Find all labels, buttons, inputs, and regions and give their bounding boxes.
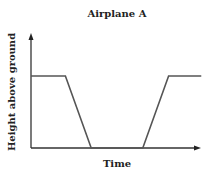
chart: Airplane A Time Height above ground — [0, 0, 208, 171]
chart-title: Airplane A — [87, 8, 147, 19]
x-axis-label: Time — [103, 158, 131, 169]
y-axis-arrow — [29, 33, 34, 40]
y-axis-label: Height above ground — [6, 33, 17, 151]
series-line-airplane-a — [31, 76, 201, 148]
plot-area — [29, 33, 202, 151]
x-axis-arrow — [194, 146, 201, 151]
